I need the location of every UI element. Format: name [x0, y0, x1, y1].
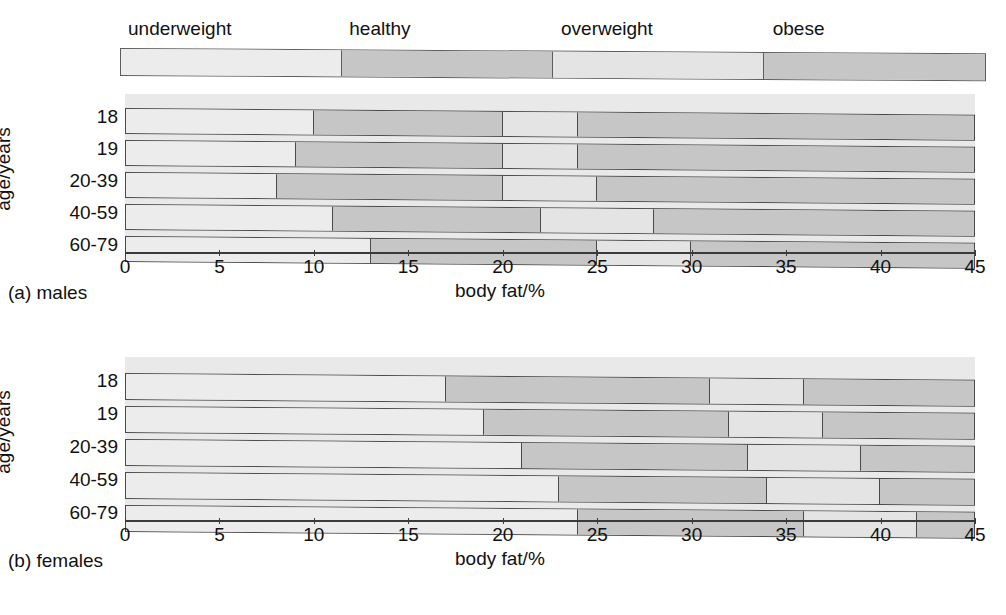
category-label: 40-59 — [8, 202, 118, 224]
category-label: 60-79 — [8, 502, 118, 524]
x-tick-label: 45 — [955, 524, 995, 546]
bar-segment-obese — [654, 209, 974, 236]
legend-label-underweight: underweight — [128, 18, 232, 40]
x-tick-mark — [597, 250, 598, 256]
x-axis-title-males: body fat/% — [455, 280, 545, 302]
panel-males: age/years 181920-3940-5960-79 0510152025… — [0, 86, 1006, 321]
x-tick-mark — [219, 250, 220, 256]
panel-caption-females: (b) females — [8, 550, 103, 572]
legend: underweighthealthyoverweightobese — [0, 0, 1006, 86]
x-tick-label: 10 — [294, 256, 334, 278]
bar-segment-healthy — [559, 476, 766, 503]
legend-label-healthy: healthy — [349, 18, 410, 40]
x-tick-mark — [125, 250, 126, 256]
bar-segment-obese — [691, 241, 974, 267]
bar-segment-overweight — [503, 176, 597, 201]
x-tick-label: 30 — [672, 256, 712, 278]
plot-area-males — [125, 94, 975, 249]
x-tick-label: 15 — [388, 524, 428, 546]
bar-segment-underweight — [126, 141, 296, 166]
x-tick-mark — [503, 250, 504, 256]
legend-swatch-underweight — [121, 49, 342, 76]
x-tick-mark — [408, 250, 409, 256]
x-tick-mark — [786, 250, 787, 256]
x-tick-label: 0 — [105, 256, 145, 278]
bar-segment-obese — [880, 479, 974, 505]
x-axis-title-females: body fat/% — [455, 548, 545, 570]
bar-segment-overweight — [729, 412, 823, 438]
bar-row — [125, 439, 975, 473]
bar-segment-healthy — [446, 377, 710, 404]
category-label: 19 — [8, 403, 118, 425]
legend-swatch-healthy — [342, 50, 553, 77]
bar-segment-underweight — [126, 407, 484, 435]
x-tick-label: 25 — [577, 524, 617, 546]
bar-segment-underweight — [126, 440, 522, 468]
x-tick-mark — [125, 518, 126, 524]
category-label: 60-79 — [8, 234, 118, 256]
category-label: 20-39 — [8, 436, 118, 458]
x-tick-label: 35 — [766, 524, 806, 546]
bar-segment-obese — [597, 177, 974, 204]
x-tick-label: 35 — [766, 256, 806, 278]
x-tick-mark — [219, 518, 220, 524]
bar-segment-obese — [861, 446, 974, 472]
x-tick-label: 5 — [199, 256, 239, 278]
bar-segment-overweight — [503, 112, 578, 137]
bar-segment-obese — [578, 145, 974, 172]
category-label: 18 — [8, 370, 118, 392]
x-tick-label: 40 — [861, 524, 901, 546]
x-tick-label: 0 — [105, 524, 145, 546]
x-tick-label: 45 — [955, 256, 995, 278]
x-tick-mark — [786, 518, 787, 524]
bar-segment-underweight — [126, 205, 333, 231]
bar-segment-overweight — [710, 379, 804, 405]
bar-segment-overweight — [503, 144, 578, 169]
bar-row — [125, 172, 975, 205]
bar-segment-healthy — [522, 443, 748, 470]
x-tick-mark — [597, 518, 598, 524]
bar-row — [125, 373, 975, 407]
x-tick-mark — [408, 518, 409, 524]
x-tick-label: 20 — [483, 256, 523, 278]
x-tick-label: 15 — [388, 256, 428, 278]
x-tick-mark — [692, 518, 693, 524]
bar-segment-underweight — [126, 473, 559, 501]
x-axis-males — [125, 252, 975, 254]
x-tick-mark — [975, 250, 976, 256]
bar-segment-healthy — [484, 410, 729, 437]
category-label: 19 — [8, 138, 118, 160]
x-tick-label: 5 — [199, 524, 239, 546]
x-tick-mark — [503, 518, 504, 524]
legend-bar — [120, 48, 986, 81]
bar-segment-obese — [578, 113, 974, 140]
legend-label-obese: obese — [773, 18, 825, 40]
category-label: 20-39 — [8, 170, 118, 192]
x-tick-label: 40 — [861, 256, 901, 278]
bar-segment-obese — [823, 412, 974, 438]
bar-segment-overweight — [541, 208, 654, 233]
legend-label-overweight: overweight — [561, 18, 653, 40]
category-label: 18 — [8, 106, 118, 128]
x-tick-mark — [881, 250, 882, 256]
panel-females: age/years 181920-3940-5960-79 0510152025… — [0, 345, 1006, 605]
bar-segment-underweight — [126, 173, 277, 198]
x-tick-mark — [314, 518, 315, 524]
x-tick-mark — [975, 518, 976, 524]
bar-row — [125, 472, 975, 506]
bar-row — [125, 108, 975, 141]
category-label: 40-59 — [8, 469, 118, 491]
bar-segment-underweight — [126, 374, 446, 402]
bar-segment-healthy — [296, 142, 503, 168]
legend-swatch-obese — [764, 53, 985, 80]
x-tick-label: 25 — [577, 256, 617, 278]
x-tick-label: 30 — [672, 524, 712, 546]
x-axis-females — [125, 520, 975, 522]
bar-segment-obese — [804, 379, 974, 405]
plot-area-females — [125, 357, 975, 517]
bar-row — [125, 406, 975, 440]
x-tick-label: 10 — [294, 524, 334, 546]
bar-segment-underweight — [126, 109, 314, 134]
x-tick-mark — [314, 250, 315, 256]
bar-segment-underweight — [126, 237, 371, 263]
